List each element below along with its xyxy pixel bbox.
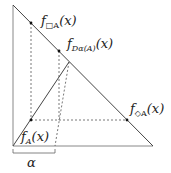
d-point bbox=[58, 50, 61, 53]
label-f-box: f□A(x) bbox=[40, 13, 77, 30]
a-point bbox=[30, 119, 33, 122]
alpha-bracket bbox=[13, 149, 55, 153]
label-f-d: fDα(A)(x) bbox=[66, 36, 113, 53]
fuzzy-modal-diagram: f□A(x) fDα(A)(x) f◇A(x) fA(x) α bbox=[0, 0, 171, 173]
label-alpha: α bbox=[27, 155, 36, 170]
diamond-point bbox=[126, 119, 129, 122]
box-point bbox=[30, 22, 33, 25]
label-f-a: fA(x) bbox=[20, 129, 49, 146]
alpha-dotted-line bbox=[55, 62, 69, 146]
label-f-diamond: f◇A(x) bbox=[129, 101, 164, 118]
hypotenuse-line bbox=[13, 5, 153, 146]
